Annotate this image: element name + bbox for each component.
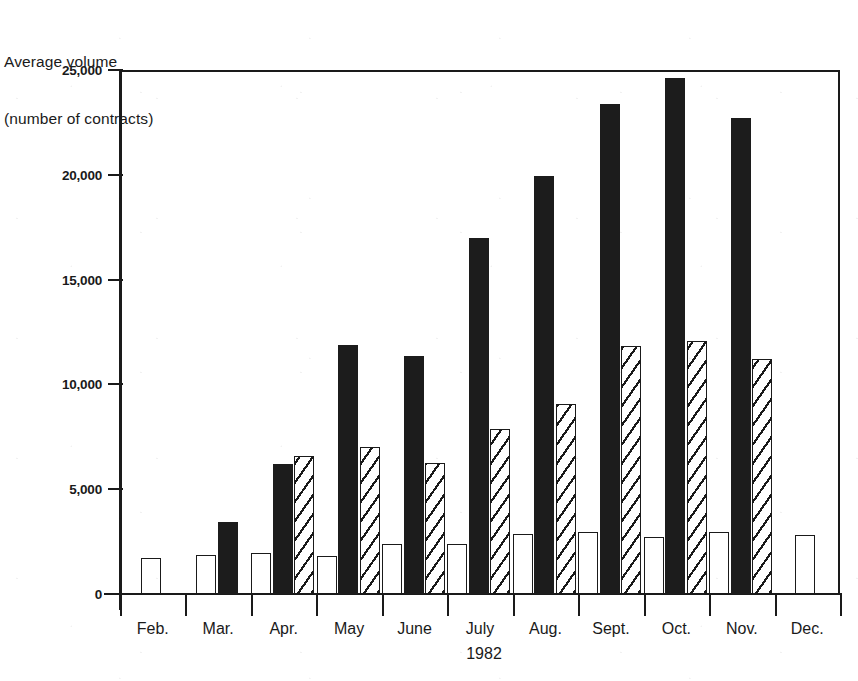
bar-solid [469, 238, 489, 594]
x-axis-tick-mark [316, 594, 318, 616]
bar-open [196, 555, 216, 594]
bar-solid [404, 356, 424, 594]
x-axis-tick-mark [578, 594, 580, 616]
bar-group [775, 70, 840, 594]
bar-open [709, 532, 729, 594]
bar-hatched [294, 456, 314, 594]
x-axis-tick-mark [644, 594, 646, 616]
x-axis-month-label: July [466, 620, 494, 638]
x-axis-month-label: Oct. [662, 620, 691, 638]
bar-hatched [621, 346, 641, 594]
bar-hatched [425, 463, 445, 594]
bar-solid [218, 522, 238, 594]
y-axis-tick-label: 10,000 [14, 377, 102, 392]
bar-group [382, 70, 447, 594]
bar-solid [731, 118, 751, 594]
x-axis-tick-mark [513, 594, 515, 616]
x-axis-month-label: Apr. [269, 620, 297, 638]
bar-open [513, 534, 533, 594]
bar-group [709, 70, 774, 594]
bar-open [317, 556, 337, 594]
x-axis-year-label: 1982 [466, 645, 502, 663]
x-axis-month-label: Nov. [726, 620, 758, 638]
x-axis-month-label: Dec. [791, 620, 824, 638]
x-axis-tick-mark [447, 594, 449, 616]
y-axis-tick-label: 25,000 [14, 63, 102, 78]
bar-open [447, 544, 467, 594]
x-axis-month-label: June [397, 620, 432, 638]
x-axis-tick-mark [840, 594, 842, 616]
bar-hatched [490, 429, 510, 594]
x-axis-month-label: Sept. [592, 620, 629, 638]
x-axis-tick-mark [775, 594, 777, 616]
x-axis-month-label: Feb. [137, 620, 169, 638]
bar-group [578, 70, 643, 594]
bar-group [316, 70, 381, 594]
y-axis-tick-label: 5,000 [14, 482, 102, 497]
bar-open [578, 532, 598, 594]
bar-group [513, 70, 578, 594]
bar-solid [534, 176, 554, 594]
bar-hatched [556, 404, 576, 594]
bar-open [382, 544, 402, 594]
bar-solid [338, 345, 358, 594]
bar-open [141, 558, 161, 594]
bar-hatched [752, 359, 772, 594]
x-axis-tick-mark [185, 594, 187, 616]
y-axis-tick-label: 0 [14, 587, 102, 602]
bar-solid [665, 78, 685, 594]
x-axis-month-label: May [334, 620, 364, 638]
x-axis-tick-mark [709, 594, 711, 616]
bar-group [185, 70, 250, 594]
x-axis-month-label: Mar. [203, 620, 234, 638]
x-axis-tick-mark [251, 594, 253, 616]
chart-figure: Average volume (number of contracts) 05,… [0, 0, 858, 681]
bar-group [447, 70, 512, 594]
y-axis-tick-label: 20,000 [14, 167, 102, 182]
bar-open [795, 535, 815, 594]
x-axis-tick-mark [382, 594, 384, 616]
bar-solid [600, 104, 620, 594]
bar-group [251, 70, 316, 594]
bar-groups [120, 70, 840, 594]
bar-hatched [360, 447, 380, 594]
bar-open [251, 553, 271, 594]
bar-group [120, 70, 185, 594]
y-axis-tick-label: 15,000 [14, 272, 102, 287]
bar-open [644, 537, 664, 594]
bar-solid [273, 464, 293, 594]
x-axis-month-label: Aug. [529, 620, 562, 638]
x-axis-origin-tick-mark [120, 594, 122, 616]
bar-group [644, 70, 709, 594]
bar-hatched [687, 341, 707, 594]
